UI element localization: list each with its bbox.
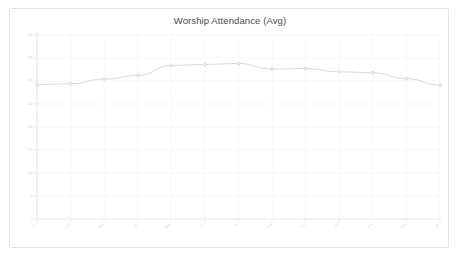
y-tick-label: 400 (27, 33, 33, 37)
x-tick-label: May (165, 222, 173, 230)
x-tick-label: Nov (366, 222, 373, 229)
series-data-point (204, 63, 207, 66)
x-tick-label: Apr (132, 221, 139, 228)
series-data-point (372, 71, 375, 74)
series-data-point (103, 78, 106, 81)
x-tick-label: Sep (299, 222, 306, 229)
line-chart-svg: 050100150200250300350400JanFebMarAprMayJ… (10, 9, 450, 249)
series-data-point (237, 62, 240, 65)
x-tick-label: Jul (233, 222, 239, 228)
series-data-point (69, 82, 72, 85)
y-tick-label: 100 (27, 171, 33, 175)
x-tick-label: Jan (31, 222, 38, 229)
y-tick-label: 150 (27, 148, 33, 152)
x-tick-label: Dec (400, 222, 407, 229)
y-tick-label: 50 (29, 194, 33, 198)
x-tick-label: Jun (199, 222, 206, 229)
x-tick-label: Aug (266, 222, 273, 229)
y-tick-label: 0 (31, 217, 33, 221)
series-data-point (405, 77, 408, 80)
series-data-point (36, 83, 39, 86)
series-data-point (439, 84, 442, 87)
series-data-point (271, 68, 274, 71)
series-data-point (170, 64, 173, 67)
series-data-point (338, 71, 341, 74)
chart-card: Worship Attendance (Avg) 050100150200250… (9, 8, 449, 248)
y-tick-label: 200 (27, 125, 33, 129)
x-tick-label: Mar (98, 221, 106, 229)
x-tick-label: Feb (64, 222, 71, 229)
y-tick-label: 350 (27, 56, 33, 60)
x-tick-label: Jan (434, 222, 441, 229)
series-data-point (136, 74, 139, 77)
chart-plot-area: 050100150200250300350400JanFebMarAprMayJ… (10, 9, 450, 249)
x-tick-label: Oct (333, 222, 340, 229)
y-tick-label: 300 (27, 79, 33, 83)
y-tick-label: 250 (27, 102, 33, 106)
series-data-point (304, 67, 307, 70)
